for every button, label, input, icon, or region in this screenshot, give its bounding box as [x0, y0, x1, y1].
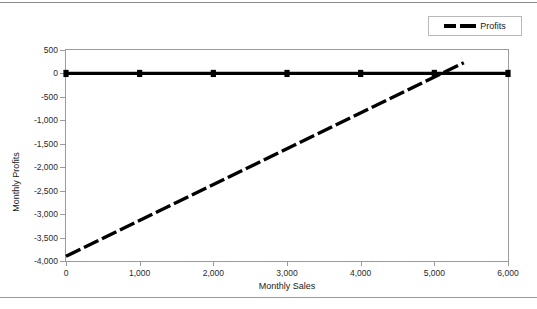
chart-container: Profits Monthly Profits 5000-500-1,000-1… [0, 4, 537, 296]
x-tick-mark [434, 262, 435, 266]
x-tick-label: 4,000 [350, 269, 371, 278]
x-axis-title: Monthly Sales [65, 281, 509, 291]
series-layer [66, 50, 508, 261]
bottom-divider [0, 297, 537, 298]
x-tick-label: 0 [64, 269, 69, 278]
y-tick-label: -2,000 [34, 163, 58, 172]
series-profits [66, 63, 464, 257]
y-axis-title: Monthly Profits [11, 132, 21, 232]
x-tick-label: 5,000 [424, 269, 445, 278]
y-tick-label: -500 [41, 93, 58, 102]
data-point-marker [63, 70, 68, 77]
top-divider [0, 2, 537, 3]
x-tick-mark [361, 262, 362, 266]
legend-label-profits: Profits [480, 22, 506, 31]
y-tick-label: -3,000 [34, 210, 58, 219]
y-axis: Monthly Profits 5000-500-1,000-1,500-2,0… [0, 49, 65, 262]
data-point-marker [137, 70, 142, 77]
x-axis: 01,0002,0003,0004,0005,0006,000 [65, 262, 509, 282]
chart-legend: Profits [428, 16, 522, 36]
x-tick-label: 3,000 [276, 269, 297, 278]
x-tick-mark [66, 262, 67, 266]
plot-area [65, 49, 509, 262]
x-tick-mark [213, 262, 214, 266]
x-tick-label: 6,000 [497, 269, 518, 278]
data-point-marker [358, 70, 363, 77]
x-tick-mark [140, 262, 141, 266]
x-tick-label: 2,000 [203, 269, 224, 278]
y-tick-label: 500 [44, 46, 58, 55]
data-point-marker [505, 70, 510, 77]
data-point-marker [284, 70, 289, 77]
data-point-marker [211, 70, 216, 77]
x-tick-mark [287, 262, 288, 266]
legend-line-sample-profits [444, 24, 476, 28]
y-tick-label: 0 [53, 69, 58, 78]
y-tick-label: -2,500 [34, 186, 58, 195]
y-tick-label: -4,000 [34, 257, 58, 266]
x-tick-label: 1,000 [129, 269, 150, 278]
x-tick-mark [508, 262, 509, 266]
y-tick-label: -1,000 [34, 116, 58, 125]
y-tick-label: -1,500 [34, 140, 58, 149]
y-tick-label: -3,500 [34, 233, 58, 242]
